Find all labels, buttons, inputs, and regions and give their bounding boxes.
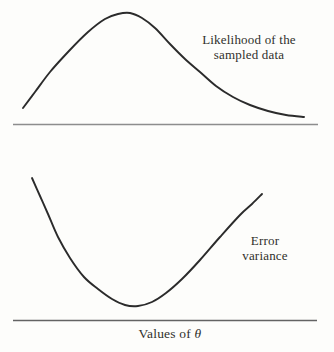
likelihood-label-line2: sampled data <box>194 48 304 63</box>
error-variance-label-line1: Error <box>228 234 302 249</box>
error-variance-label-line2: variance <box>228 249 302 264</box>
likelihood-label: Likelihood of the sampled data <box>194 33 304 62</box>
likelihood-curve <box>23 13 304 117</box>
x-axis-label: Values of θ <box>115 327 225 342</box>
theta-symbol: θ <box>195 326 202 341</box>
x-axis-label-text: Values of <box>139 326 195 341</box>
error-variance-label: Error variance <box>228 234 302 263</box>
statistics-figure: Likelihood of the sampled data Error var… <box>0 0 334 352</box>
likelihood-label-line1: Likelihood of the <box>194 33 304 48</box>
